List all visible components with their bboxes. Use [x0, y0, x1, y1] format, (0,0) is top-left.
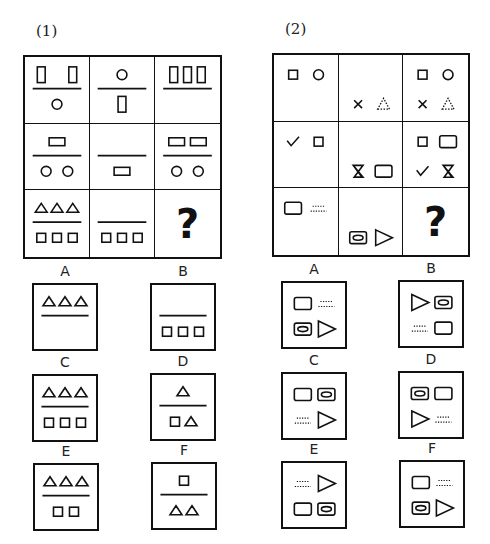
option-figure — [152, 375, 214, 439]
cell-figure — [90, 57, 154, 123]
puzzle2-option-c[interactable]: C — [281, 352, 347, 440]
option-figure-box[interactable] — [32, 283, 98, 351]
cell-figure — [403, 122, 468, 188]
puzzle1-cell-2-3 — [155, 124, 220, 191]
puzzle1-cell-2-2 — [90, 124, 155, 191]
puzzle2-cell-1-1 — [274, 55, 339, 122]
question-mark: ? — [403, 188, 468, 255]
option-figure-box[interactable] — [32, 374, 98, 442]
puzzle2-option-f[interactable]: F — [399, 440, 465, 528]
option-figure-box[interactable] — [151, 462, 217, 530]
puzzle2-cell-3-1 — [274, 188, 339, 255]
option-figure — [34, 376, 96, 440]
option-letter: C — [281, 352, 347, 368]
option-letter: B — [150, 263, 216, 279]
cell-figure — [25, 57, 89, 123]
puzzle2-cell-1-2 — [339, 55, 404, 122]
option-letter: C — [32, 354, 98, 370]
option-figure — [35, 465, 97, 529]
puzzle2-option-e[interactable]: E — [281, 441, 347, 529]
option-letter: A — [281, 261, 347, 277]
puzzle1-cell-3-1 — [25, 190, 90, 257]
puzzle1-grid: ? — [23, 55, 222, 259]
puzzle2-cell-2-3 — [403, 122, 468, 189]
option-figure — [283, 463, 345, 527]
puzzle1-cell-2-1 — [25, 124, 90, 191]
option-figure — [400, 282, 462, 346]
option-figure — [34, 285, 96, 349]
option-letter: A — [32, 263, 98, 279]
puzzle1-cell-3-2 — [90, 190, 155, 257]
option-figure — [283, 283, 345, 347]
cell-figure — [274, 122, 338, 188]
puzzle2-cell-3-3: ? — [403, 188, 468, 255]
puzzle2-cell-3-2 — [339, 188, 404, 255]
cell-figure — [339, 188, 403, 255]
option-figure — [283, 374, 345, 438]
cell-figure — [339, 122, 403, 188]
cell-figure — [155, 124, 220, 190]
option-figure-box[interactable] — [150, 283, 216, 351]
puzzle1-option-b[interactable]: B — [150, 263, 216, 351]
cell-figure — [155, 57, 220, 123]
puzzle1-option-c[interactable]: C — [32, 354, 98, 442]
puzzle1-cell-3-3: ? — [155, 190, 220, 257]
option-letter: D — [150, 353, 216, 369]
option-letter: E — [281, 441, 347, 457]
puzzle2-cell-2-1 — [274, 122, 339, 189]
option-figure-box[interactable] — [281, 281, 347, 349]
option-figure-box[interactable] — [398, 280, 464, 348]
option-figure-box[interactable] — [281, 372, 347, 440]
puzzle1-cell-1-3 — [155, 57, 220, 124]
cell-figure — [90, 190, 154, 257]
option-figure — [400, 373, 462, 437]
option-figure-box[interactable] — [281, 461, 347, 529]
cell-figure — [403, 55, 468, 121]
option-letter: F — [399, 440, 465, 456]
option-figure — [153, 464, 215, 528]
cell-figure — [274, 188, 338, 255]
question-mark: ? — [155, 190, 220, 257]
puzzle2-option-a[interactable]: A — [281, 261, 347, 349]
puzzle2-option-d[interactable]: D — [398, 351, 464, 439]
puzzle1-option-f[interactable]: F — [151, 442, 217, 530]
option-letter: B — [398, 260, 464, 276]
puzzle1-cell-1-1 — [25, 57, 90, 124]
puzzle2-cell-2-2 — [339, 122, 404, 189]
option-letter: F — [151, 442, 217, 458]
cell-figure — [25, 190, 89, 257]
option-figure-box[interactable] — [150, 373, 216, 441]
option-letter: E — [33, 443, 99, 459]
option-figure-box[interactable] — [398, 371, 464, 439]
puzzle1-label: (1) — [36, 22, 57, 40]
puzzle2-option-b[interactable]: B — [398, 260, 464, 348]
cell-figure — [25, 124, 89, 190]
cell-figure — [339, 55, 403, 121]
option-figure-box[interactable] — [33, 463, 99, 531]
cell-figure — [90, 124, 154, 190]
puzzle1-cell-1-2 — [90, 57, 155, 124]
puzzle2-cell-1-3 — [403, 55, 468, 122]
puzzle1-option-a[interactable]: A — [32, 263, 98, 351]
option-figure-box[interactable] — [399, 460, 465, 528]
puzzle1-option-d[interactable]: D — [150, 353, 216, 441]
option-figure — [152, 285, 214, 349]
cell-figure — [274, 55, 338, 121]
option-letter: D — [398, 351, 464, 367]
puzzle2-label: (2) — [285, 20, 306, 38]
puzzle2-grid: ? — [272, 53, 470, 257]
option-figure — [401, 462, 463, 526]
puzzle1-option-e[interactable]: E — [33, 443, 99, 531]
